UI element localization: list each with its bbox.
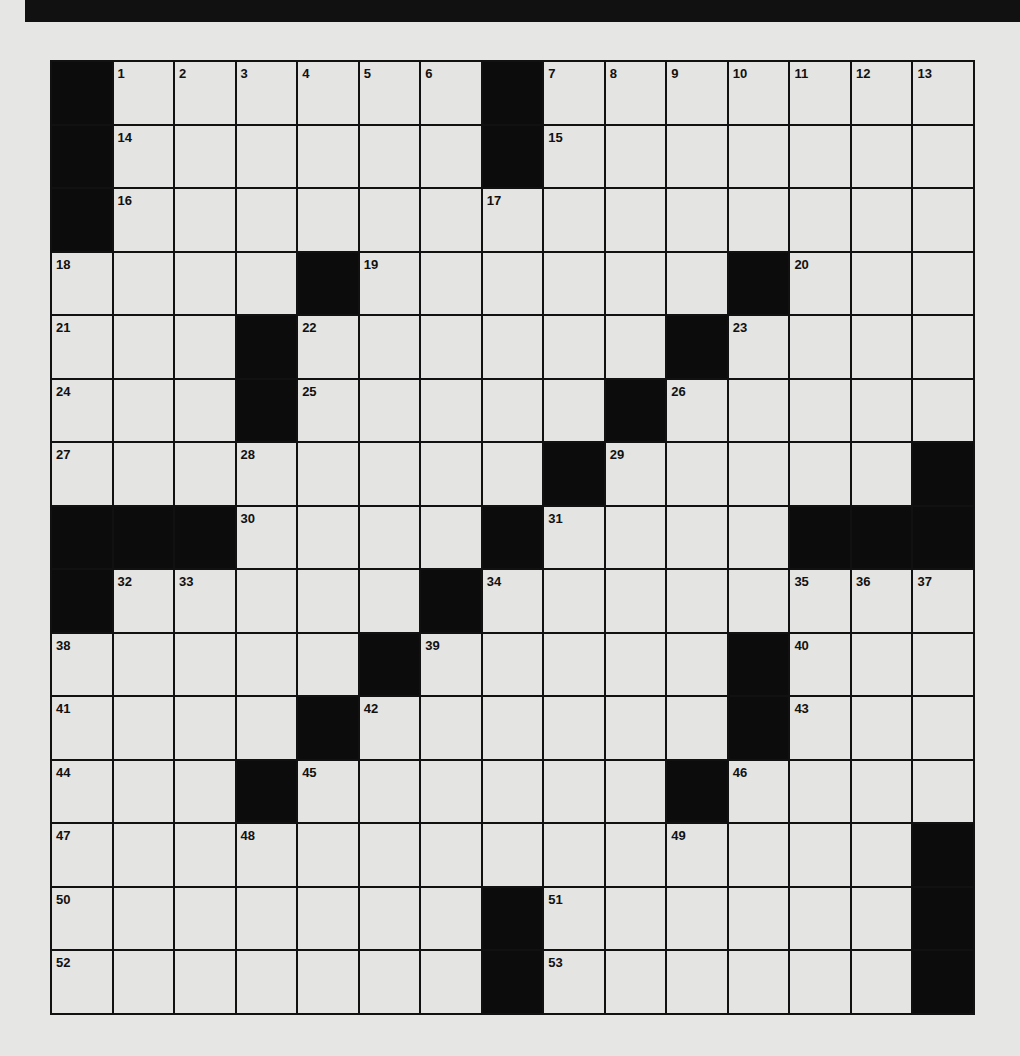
- grid-cell[interactable]: 21: [52, 316, 112, 378]
- grid-cell[interactable]: [298, 824, 358, 886]
- grid-cell[interactable]: [790, 951, 850, 1013]
- grid-cell[interactable]: [729, 507, 789, 569]
- grid-cell[interactable]: 35: [790, 570, 850, 632]
- grid-cell[interactable]: [421, 761, 481, 823]
- grid-cell[interactable]: [667, 507, 727, 569]
- grid-cell[interactable]: 52: [52, 951, 112, 1013]
- grid-cell[interactable]: [175, 380, 235, 442]
- grid-cell[interactable]: [667, 126, 727, 188]
- grid-cell[interactable]: 10: [729, 62, 789, 124]
- grid-cell[interactable]: [544, 316, 604, 378]
- grid-cell[interactable]: [544, 380, 604, 442]
- grid-cell[interactable]: [483, 316, 543, 378]
- grid-cell[interactable]: [544, 570, 604, 632]
- grid-cell[interactable]: [298, 443, 358, 505]
- grid-cell[interactable]: [913, 634, 973, 696]
- grid-cell[interactable]: [606, 697, 666, 759]
- grid-cell[interactable]: 38: [52, 634, 112, 696]
- grid-cell[interactable]: 49: [667, 824, 727, 886]
- grid-cell[interactable]: [852, 888, 912, 950]
- grid-cell[interactable]: [667, 189, 727, 251]
- grid-cell[interactable]: [298, 189, 358, 251]
- grid-cell[interactable]: 22: [298, 316, 358, 378]
- grid-cell[interactable]: 47: [52, 824, 112, 886]
- grid-cell[interactable]: 50: [52, 888, 112, 950]
- grid-cell[interactable]: 33: [175, 570, 235, 632]
- grid-cell[interactable]: [483, 697, 543, 759]
- grid-cell[interactable]: 19: [360, 253, 420, 315]
- grid-cell[interactable]: [606, 126, 666, 188]
- grid-cell[interactable]: [175, 888, 235, 950]
- grid-cell[interactable]: 31: [544, 507, 604, 569]
- grid-cell[interactable]: [790, 824, 850, 886]
- grid-cell[interactable]: [729, 570, 789, 632]
- grid-cell[interactable]: [913, 697, 973, 759]
- grid-cell[interactable]: [852, 380, 912, 442]
- grid-cell[interactable]: [852, 126, 912, 188]
- grid-cell[interactable]: [114, 888, 174, 950]
- grid-cell[interactable]: [421, 443, 481, 505]
- grid-cell[interactable]: [790, 380, 850, 442]
- grid-cell[interactable]: [360, 189, 420, 251]
- grid-cell[interactable]: [114, 443, 174, 505]
- grid-cell[interactable]: [421, 697, 481, 759]
- grid-cell[interactable]: [667, 570, 727, 632]
- grid-cell[interactable]: [360, 126, 420, 188]
- grid-cell[interactable]: [237, 253, 297, 315]
- grid-cell[interactable]: [544, 761, 604, 823]
- grid-cell[interactable]: [421, 126, 481, 188]
- grid-cell[interactable]: [483, 253, 543, 315]
- grid-cell[interactable]: 5: [360, 62, 420, 124]
- grid-cell[interactable]: [729, 380, 789, 442]
- grid-cell[interactable]: [913, 380, 973, 442]
- grid-cell[interactable]: [606, 570, 666, 632]
- grid-cell[interactable]: [114, 824, 174, 886]
- grid-cell[interactable]: [114, 380, 174, 442]
- grid-cell[interactable]: [606, 888, 666, 950]
- grid-cell[interactable]: [544, 824, 604, 886]
- grid-cell[interactable]: 45: [298, 761, 358, 823]
- grid-cell[interactable]: [237, 888, 297, 950]
- grid-cell[interactable]: 27: [52, 443, 112, 505]
- grid-cell[interactable]: [114, 253, 174, 315]
- grid-cell[interactable]: [360, 507, 420, 569]
- grid-cell[interactable]: 17: [483, 189, 543, 251]
- grid-cell[interactable]: [790, 189, 850, 251]
- grid-cell[interactable]: [360, 443, 420, 505]
- grid-cell[interactable]: 43: [790, 697, 850, 759]
- grid-cell[interactable]: [421, 380, 481, 442]
- grid-cell[interactable]: 3: [237, 62, 297, 124]
- grid-cell[interactable]: [852, 634, 912, 696]
- grid-cell[interactable]: [175, 126, 235, 188]
- grid-cell[interactable]: [729, 443, 789, 505]
- grid-cell[interactable]: [606, 316, 666, 378]
- grid-cell[interactable]: [360, 761, 420, 823]
- grid-cell[interactable]: 9: [667, 62, 727, 124]
- grid-cell[interactable]: [483, 380, 543, 442]
- grid-cell[interactable]: 34: [483, 570, 543, 632]
- grid-cell[interactable]: [298, 507, 358, 569]
- grid-cell[interactable]: [852, 189, 912, 251]
- grid-cell[interactable]: [483, 761, 543, 823]
- grid-cell[interactable]: 46: [729, 761, 789, 823]
- grid-cell[interactable]: [913, 761, 973, 823]
- grid-cell[interactable]: 24: [52, 380, 112, 442]
- grid-cell[interactable]: [483, 634, 543, 696]
- grid-cell[interactable]: [852, 951, 912, 1013]
- grid-cell[interactable]: [237, 951, 297, 1013]
- grid-cell[interactable]: [360, 570, 420, 632]
- grid-cell[interactable]: 2: [175, 62, 235, 124]
- grid-cell[interactable]: [667, 443, 727, 505]
- grid-cell[interactable]: [667, 634, 727, 696]
- grid-cell[interactable]: [729, 951, 789, 1013]
- grid-cell[interactable]: [237, 189, 297, 251]
- grid-cell[interactable]: [729, 824, 789, 886]
- grid-cell[interactable]: 51: [544, 888, 604, 950]
- grid-cell[interactable]: 39: [421, 634, 481, 696]
- grid-cell[interactable]: [114, 697, 174, 759]
- grid-cell[interactable]: 25: [298, 380, 358, 442]
- grid-cell[interactable]: 42: [360, 697, 420, 759]
- grid-cell[interactable]: 16: [114, 189, 174, 251]
- grid-cell[interactable]: [729, 189, 789, 251]
- grid-cell[interactable]: [913, 189, 973, 251]
